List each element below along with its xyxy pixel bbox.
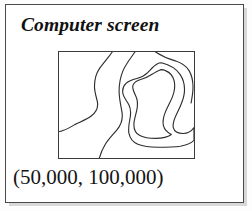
page-title: Computer screen bbox=[21, 14, 160, 36]
map-viewport bbox=[58, 51, 195, 159]
contour-edge-right bbox=[156, 52, 193, 103]
computer-screen-panel: Computer screen (50,000, 100,000) bbox=[5, 4, 244, 203]
computer-screen-figure: Computer screen (50,000, 100,000) bbox=[0, 0, 252, 211]
coordinate-label: (50,000, 100,000) bbox=[13, 165, 164, 190]
contour-outer-right bbox=[123, 63, 194, 147]
stream-line-left bbox=[59, 52, 112, 132]
contour-inner-right bbox=[133, 70, 175, 139]
map-canvas bbox=[59, 52, 194, 158]
